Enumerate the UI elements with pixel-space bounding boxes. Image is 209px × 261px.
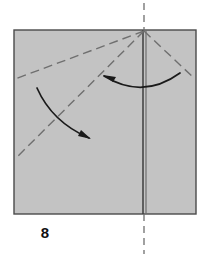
step-number-label: 8 (33, 224, 57, 242)
paper-square (14, 30, 196, 214)
figure-canvas (0, 0, 209, 261)
origami-step-figure: 8 (0, 0, 209, 261)
